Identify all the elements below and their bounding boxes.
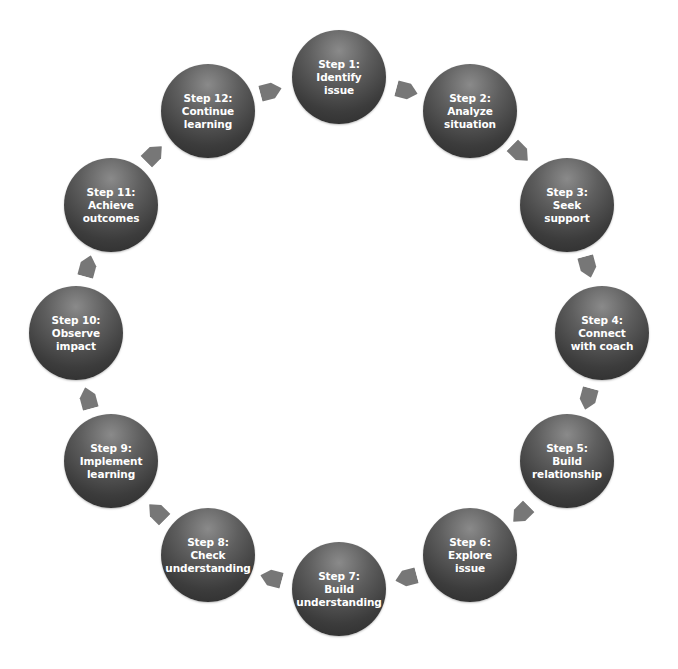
step-title: Step 10:: [52, 314, 101, 327]
step-label-line2: issue: [316, 84, 361, 97]
arrow-right-icon: [258, 565, 284, 590]
step-label-line1: Observe: [52, 327, 101, 340]
step-title: Step 8:: [165, 536, 250, 549]
step-6-circle: Step 6:Exploreissue: [423, 508, 517, 602]
step-title: Step 4:: [571, 314, 634, 327]
step-11-circle: Step 11:Achieveoutcomes: [64, 158, 158, 252]
step-title: Step 11:: [83, 186, 140, 199]
step-9-circle: Step 9:Implementlearning: [64, 414, 158, 508]
step-label-line1: Connect: [571, 327, 634, 340]
step-label-line1: Achieve: [83, 199, 140, 212]
arrow-right-icon: [139, 139, 169, 169]
step-label-line2: situation: [444, 118, 496, 131]
arrow-right-icon: [75, 385, 100, 411]
cycle-diagram: Step 1:Identifyissue Step 2:Analyzesitua…: [0, 0, 678, 669]
step-3-circle: Step 3:Seeksupport: [520, 158, 614, 252]
step-label-line2: issue: [448, 562, 492, 575]
step-title: Step 12:: [182, 92, 234, 105]
step-7-circle: Step 7:Buildunderstanding: [292, 542, 386, 636]
step-title: Step 6:: [448, 536, 492, 549]
step-label-line2: learning: [182, 118, 234, 131]
step-label-line1: Check: [165, 549, 250, 562]
step-title: Step 2:: [444, 92, 496, 105]
step-label-line2: learning: [80, 468, 143, 481]
step-label-line2: impact: [52, 340, 101, 353]
step-label-line1: Build: [296, 583, 381, 596]
step-2-circle: Step 2:Analyzesituation: [423, 64, 517, 158]
step-title: Step 7:: [296, 570, 381, 583]
step-8-circle: Step 8:Checkunderstanding: [161, 508, 255, 602]
arrow-right-icon: [394, 78, 420, 103]
step-label-line1: Continue: [182, 105, 234, 118]
step-4-circle: Step 4:Connectwith coach: [555, 286, 649, 380]
arrow-right-icon: [75, 253, 100, 279]
arrow-right-icon: [258, 78, 284, 103]
step-label-line1: Explore: [448, 549, 492, 562]
step-label-line2: understanding: [296, 596, 381, 609]
arrow-right-icon: [506, 499, 536, 529]
step-label-line2: support: [544, 212, 589, 225]
step-title: Step 9:: [80, 442, 143, 455]
arrow-right-icon: [142, 497, 172, 527]
step-title: Step 1:: [316, 58, 361, 71]
step-5-circle: Step 5:Buildrelationship: [520, 414, 614, 508]
step-label-line2: outcomes: [83, 212, 140, 225]
step-label-line2: understanding: [165, 562, 250, 575]
step-label-line1: Analyze: [444, 105, 496, 118]
step-title: Step 5:: [532, 442, 602, 455]
step-label-line1: Identify: [316, 71, 361, 84]
step-10-circle: Step 10:Observeimpact: [29, 286, 123, 380]
arrow-right-icon: [505, 138, 535, 168]
step-title: Step 3:: [544, 186, 589, 199]
step-12-circle: Step 12:Continuelearning: [161, 64, 255, 158]
arrow-right-icon: [575, 254, 600, 280]
step-label-line1: Build: [532, 455, 602, 468]
step-label-line1: Implement: [80, 455, 143, 468]
arrow-right-icon: [575, 386, 600, 412]
step-label-line2: with coach: [571, 340, 634, 353]
step-1-circle: Step 1:Identifyissue: [292, 30, 386, 124]
step-label-line2: relationship: [532, 468, 602, 481]
arrow-right-icon: [393, 565, 419, 590]
step-label-line1: Seek: [544, 199, 589, 212]
